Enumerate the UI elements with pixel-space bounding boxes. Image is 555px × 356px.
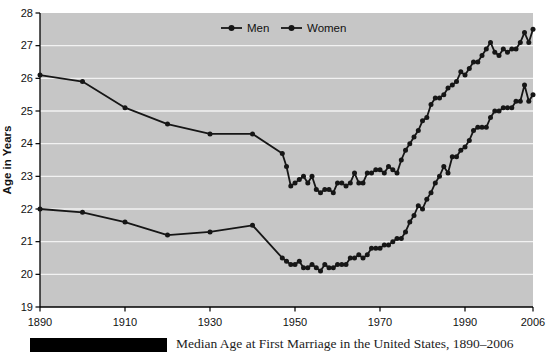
men-point — [386, 164, 391, 169]
men-point — [416, 128, 421, 133]
women-point — [484, 125, 489, 130]
women-point — [390, 239, 395, 244]
women-point — [433, 180, 438, 185]
x-tick-label: 1890 — [28, 316, 52, 328]
median-age-first-marriage-chart: 1920212223242526272818901910193019501970… — [0, 0, 555, 336]
women-point — [412, 213, 417, 218]
women-point — [407, 220, 412, 225]
women-point — [297, 259, 302, 264]
legend-women-label: Women — [307, 22, 346, 34]
women-point — [518, 99, 523, 104]
women-point — [420, 207, 425, 212]
men-point — [492, 50, 497, 55]
men-point — [314, 187, 319, 192]
y-tick-label: 20 — [21, 268, 33, 280]
men-point — [484, 46, 489, 51]
x-tick-label: 1910 — [113, 316, 137, 328]
women-point — [361, 256, 366, 261]
men-point — [531, 27, 536, 32]
women-point — [378, 246, 383, 251]
men-point — [518, 40, 523, 45]
women-point — [416, 203, 421, 208]
men-point — [412, 135, 417, 140]
men-point — [480, 53, 485, 58]
women-point — [318, 269, 323, 274]
men-point — [488, 40, 493, 45]
women-point — [165, 233, 170, 238]
women-point — [424, 197, 429, 202]
x-tick-label: 1930 — [198, 316, 222, 328]
men-point — [407, 141, 412, 146]
men-point — [505, 50, 510, 55]
men-point — [467, 66, 472, 71]
y-tick-label: 22 — [21, 203, 33, 215]
women-point — [399, 236, 404, 241]
men-point — [284, 164, 289, 169]
women-point — [514, 99, 519, 104]
women-point — [123, 220, 128, 225]
women-point — [314, 265, 319, 270]
women-point — [322, 262, 327, 267]
women-point — [480, 125, 485, 130]
x-tick-label: 2006 — [521, 316, 545, 328]
men-point — [361, 180, 366, 185]
men-point — [80, 79, 85, 84]
men-point — [501, 46, 506, 51]
figure-caption-row: Median Age at First Marriage in the Unit… — [0, 336, 555, 356]
men-point — [327, 187, 332, 192]
women-point — [488, 115, 493, 120]
men-point — [352, 171, 357, 176]
men-point — [471, 60, 476, 65]
women-point — [301, 265, 306, 270]
women-point — [526, 99, 531, 104]
figure-caption: Median Age at First Marriage in the Unit… — [176, 336, 513, 352]
men-point — [301, 174, 306, 179]
men-point — [424, 115, 429, 120]
men-point — [38, 73, 43, 78]
women-point — [471, 128, 476, 133]
men-point — [369, 171, 374, 176]
women-point — [386, 242, 391, 247]
women-point — [352, 256, 357, 261]
y-tick-label: 27 — [21, 39, 33, 51]
men-point — [390, 167, 395, 172]
men-point — [165, 122, 170, 127]
men-point — [310, 174, 315, 179]
y-tick-label: 26 — [21, 72, 33, 84]
women-point — [522, 82, 527, 87]
men-point — [522, 30, 527, 35]
men-point — [458, 69, 463, 74]
y-tick-label: 24 — [21, 137, 33, 149]
legend-men-marker — [229, 25, 235, 31]
men-point — [339, 180, 344, 185]
y-tick-label: 28 — [21, 7, 33, 19]
women-point — [463, 144, 468, 149]
women-point — [335, 262, 340, 267]
men-point — [348, 180, 353, 185]
women-point — [509, 105, 514, 110]
women-point — [310, 262, 315, 267]
men-point — [250, 131, 255, 136]
women-point — [531, 92, 536, 97]
legend-men-label: Men — [247, 22, 269, 34]
women-point — [505, 105, 510, 110]
women-point — [280, 256, 285, 261]
men-point — [382, 171, 387, 176]
x-tick-label: 1970 — [368, 316, 392, 328]
men-point — [344, 184, 349, 189]
men-point — [450, 82, 455, 87]
women-point — [365, 252, 370, 257]
men-point — [123, 105, 128, 110]
y-axis-title: Age in Years — [1, 126, 13, 195]
men-point — [297, 177, 302, 182]
y-tick-label: 21 — [21, 235, 33, 247]
figure-badge — [30, 338, 167, 352]
men-point — [437, 95, 442, 100]
women-point — [344, 262, 349, 267]
men-point — [429, 102, 434, 107]
women-point — [497, 109, 502, 114]
men-point — [526, 40, 531, 45]
women-point — [305, 265, 310, 270]
men-point — [288, 184, 293, 189]
y-tick-label: 19 — [21, 301, 33, 313]
